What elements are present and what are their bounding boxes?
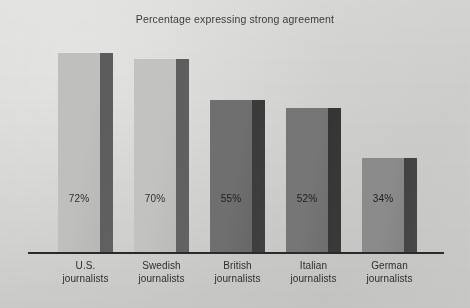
bar-side-face [252, 100, 265, 252]
chart-title: Percentage expressing strong agreement [0, 13, 470, 25]
bar-value-label: 52% [286, 193, 328, 204]
bar-front-face [210, 100, 252, 252]
bar-front-face [134, 59, 176, 252]
category-label-line1: German [342, 260, 438, 273]
bar-chart-figure: Percentage expressing strong agreement 7… [0, 0, 470, 308]
bar-side-face [328, 108, 341, 252]
x-axis-line [28, 252, 444, 254]
bar-side-face [404, 158, 417, 252]
category-label-5: Germanjournalists [342, 260, 438, 285]
bar-4[interactable]: 52% [286, 108, 341, 252]
bar-value-label: 34% [362, 193, 404, 204]
bar-front-face [58, 53, 100, 252]
bar-1[interactable]: 72% [58, 53, 113, 252]
bar-value-label: 55% [210, 193, 252, 204]
bar-side-face [100, 53, 113, 252]
bar-3[interactable]: 55% [210, 100, 265, 252]
bar-2[interactable]: 70% [134, 59, 189, 252]
plot-area: 72%U.S.journalists70%Swedishjournalists5… [0, 0, 470, 308]
bar-5[interactable]: 34% [362, 158, 417, 252]
bar-front-face [286, 108, 328, 252]
bar-front-face [362, 158, 404, 252]
bar-value-label: 70% [134, 193, 176, 204]
bar-value-label: 72% [58, 193, 100, 204]
bar-side-face [176, 59, 189, 252]
category-label-line2: journalists [342, 273, 438, 286]
